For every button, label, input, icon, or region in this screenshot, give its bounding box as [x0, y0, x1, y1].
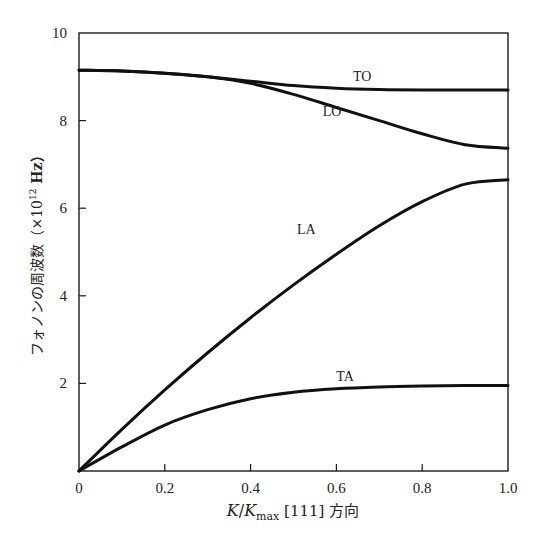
curve-label-ta: TA [336, 369, 354, 384]
x-axis-title: K/Kmax [111] 方向 [226, 501, 359, 523]
x-tick-labels: 00.20.40.60.81.0 [75, 480, 517, 496]
curve-label-lo: LO [323, 104, 342, 119]
curve-ta [79, 386, 508, 471]
y-tick-label: 8 [60, 113, 68, 129]
x-tick-label: 0.8 [413, 480, 432, 496]
curve-label-to: TO [353, 69, 371, 84]
x-tick-label: 1.0 [499, 480, 518, 496]
curve-labels: TOLOLATA [297, 69, 371, 384]
axis-ticks [79, 121, 422, 471]
curve-lo [79, 70, 508, 148]
curve-la [79, 180, 508, 471]
plot-frame [79, 33, 508, 471]
x-tick-label: 0 [75, 480, 83, 496]
y-tick-label: 10 [52, 25, 67, 41]
x-tick-label: 0.4 [241, 480, 260, 496]
x-tick-label: 0.6 [327, 480, 346, 496]
y-axis-title: フォノンの周波数（×1012 Hz） [28, 148, 45, 355]
curve-label-la: LA [297, 222, 317, 237]
y-tick-label: 2 [60, 375, 68, 391]
y-tick-label: 4 [60, 288, 68, 304]
y-tick-labels: 246810 [52, 25, 68, 391]
phonon-dispersion-chart: 00.20.40.60.81.0 246810 TOLOLATA K/Kmax … [0, 0, 540, 543]
x-tick-label: 0.2 [155, 480, 174, 496]
y-tick-label: 6 [60, 200, 68, 216]
dispersion-curves [79, 70, 508, 471]
